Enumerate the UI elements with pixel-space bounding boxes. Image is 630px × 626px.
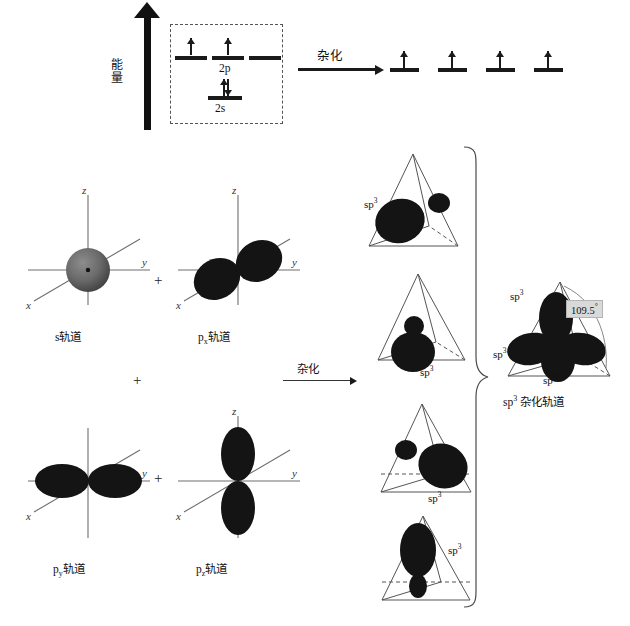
tetrahedron-3-label-main: sp bbox=[428, 492, 438, 504]
plus-sign-1: + bbox=[154, 272, 162, 289]
tetrahedron-1-lobe bbox=[369, 192, 450, 249]
sp3-result-label-2-sup: 3 bbox=[503, 346, 507, 355]
bond-angle-badge: 109.5° bbox=[566, 300, 603, 318]
hybridize-arrow-top-head bbox=[375, 65, 384, 75]
plus-sign-3: + bbox=[154, 470, 162, 487]
orbital-caption-pz-tail: 轨道 bbox=[205, 563, 227, 575]
tetrahedron-2-label: sp3 bbox=[420, 364, 434, 378]
orbital-caption-pz: pz轨道 bbox=[196, 560, 227, 578]
orbital-caption-s: s轨道 bbox=[55, 328, 81, 346]
sp3-result-label-4-sup: 3 bbox=[555, 355, 559, 364]
hybridize-arrow-middle-head bbox=[350, 377, 357, 385]
energy-axis-label: 能量 bbox=[107, 58, 124, 84]
axis-label-z: z bbox=[231, 185, 237, 196]
sp3-result-label-4-main: sp bbox=[545, 357, 555, 369]
sp3-hybrid-caption-tail: 杂化轨道 bbox=[517, 396, 564, 408]
orbital-caption-s-tail: 轨道 bbox=[59, 331, 81, 343]
tetrahedron-4-label-main: sp bbox=[448, 544, 458, 556]
tetrahedron-4-lobe bbox=[400, 523, 436, 598]
hybridize-label-top: 杂化 bbox=[317, 45, 343, 64]
axis-label-y: y bbox=[291, 256, 297, 268]
hybridize-arrow-top-line bbox=[298, 68, 376, 71]
py-orbital-plot: y x bbox=[20, 418, 160, 543]
orbital-caption-py-tail: 轨道 bbox=[63, 563, 85, 575]
axis-label-y: y bbox=[141, 467, 147, 479]
energy-axis bbox=[144, 12, 151, 130]
tetrahedron-3-label-sup: 3 bbox=[438, 490, 442, 499]
sp3-result-label-2: sp3 bbox=[493, 346, 507, 360]
bond-angle-value: 109.5 bbox=[571, 305, 595, 316]
axis-label-x: x bbox=[175, 299, 181, 310]
tetrahedron-2-label-main: sp bbox=[420, 366, 430, 378]
axis-label-y: y bbox=[141, 256, 147, 268]
sp3-result-label-1-sup: 3 bbox=[520, 288, 524, 297]
axis-label-z: z bbox=[231, 408, 237, 417]
plus-sign-2: + bbox=[133, 372, 141, 389]
s-orbital-plot: z y x bbox=[20, 185, 160, 310]
sp3-result-label-3: sp3 bbox=[543, 372, 557, 386]
sp3-result-label-1-main: sp bbox=[510, 290, 520, 302]
sp3-result-label-3-main: sp bbox=[543, 374, 553, 386]
hybridize-label-middle: 杂化 bbox=[297, 360, 319, 376]
tetrahedron-3-label: sp3 bbox=[428, 490, 442, 504]
tetrahedron-1-label-main: sp bbox=[364, 198, 374, 210]
axis-label-y: y bbox=[291, 467, 297, 479]
sp3-hybrid-caption-main: sp bbox=[503, 396, 513, 408]
tetrahedron-2-label-sup: 3 bbox=[430, 364, 434, 373]
pz-orbital-plot: z y x bbox=[170, 408, 310, 543]
sp3-result-label-1: sp3 bbox=[510, 288, 524, 302]
bond-angle-unit: ° bbox=[595, 302, 598, 311]
level-label-2p: 2p bbox=[219, 62, 231, 74]
sp3-result-label-2-main: sp bbox=[493, 348, 503, 360]
tetrahedron-1-label: sp3 bbox=[364, 196, 378, 210]
orbital-caption-px: px轨道 bbox=[198, 328, 230, 346]
axis-label-x: x bbox=[25, 510, 31, 522]
grouping-brace bbox=[458, 145, 490, 610]
axis-label-x: x bbox=[25, 299, 31, 310]
orbital-caption-px-tail: 轨道 bbox=[208, 331, 230, 343]
orbital-caption-py: py轨道 bbox=[53, 560, 85, 578]
hybridize-arrow-middle-line bbox=[283, 380, 352, 381]
sp3-result-label-3-sup: 3 bbox=[553, 372, 557, 381]
level-label-2s: 2s bbox=[215, 102, 225, 114]
axis-label-z: z bbox=[81, 185, 87, 196]
tetrahedron-1-label-sup: 3 bbox=[374, 196, 378, 205]
sp3-hybrid-caption: sp3 杂化轨道 bbox=[503, 393, 564, 409]
axis-label-x: x bbox=[175, 510, 181, 522]
px-orbital-plot: z y x bbox=[170, 185, 310, 310]
